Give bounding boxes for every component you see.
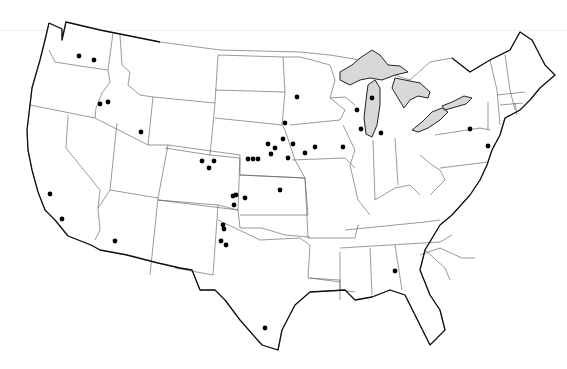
- location-marker: [224, 243, 229, 248]
- location-marker: [222, 227, 227, 232]
- location-marker: [486, 144, 491, 149]
- location-marker: [200, 159, 205, 164]
- location-marker: [246, 157, 251, 162]
- location-marker: [232, 203, 237, 208]
- location-marker: [468, 127, 473, 132]
- location-marker: [113, 239, 118, 244]
- location-marker: [139, 130, 144, 135]
- location-marker: [281, 137, 286, 142]
- location-marker: [269, 152, 274, 157]
- location-marker: [48, 192, 53, 197]
- location-marker: [266, 142, 271, 147]
- location-marker: [234, 193, 239, 198]
- location-marker: [219, 239, 224, 244]
- location-marker: [283, 121, 288, 126]
- location-marker: [359, 127, 364, 132]
- location-marker: [98, 102, 103, 107]
- us-map: [0, 0, 567, 369]
- location-marker: [92, 58, 97, 63]
- location-marker: [341, 145, 346, 150]
- location-marker: [278, 188, 283, 193]
- location-marker: [256, 157, 261, 162]
- location-marker: [77, 54, 82, 59]
- location-marker: [313, 145, 318, 150]
- location-marker: [286, 156, 291, 161]
- location-marker: [60, 217, 65, 222]
- location-marker: [295, 95, 300, 100]
- location-marker: [379, 131, 384, 136]
- location-marker: [243, 196, 248, 201]
- location-marker: [355, 108, 360, 113]
- location-marker: [393, 269, 398, 274]
- location-marker: [212, 159, 217, 164]
- location-marker: [263, 326, 268, 331]
- location-marker: [207, 166, 212, 171]
- location-marker: [221, 223, 226, 228]
- location-marker: [370, 96, 375, 101]
- location-marker: [303, 151, 308, 156]
- location-marker: [251, 157, 256, 162]
- location-marker: [291, 142, 296, 147]
- location-marker: [273, 146, 278, 151]
- location-marker: [106, 100, 111, 105]
